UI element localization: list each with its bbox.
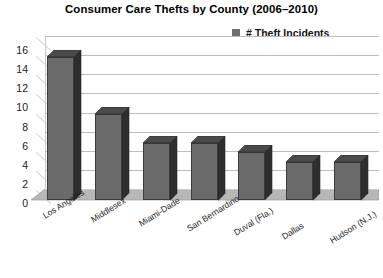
bar-top-face (191, 136, 226, 144)
gridline (45, 93, 379, 94)
plot-area (31, 36, 379, 203)
bar-top-face (143, 136, 178, 144)
y-tick-label: 14 (6, 63, 28, 75)
x-category-label: Hudson (N.J.) (328, 209, 378, 246)
bar-side-face (218, 136, 226, 201)
bar-top-face (95, 107, 130, 115)
bar-side-face (265, 145, 273, 201)
bar-chart-figure: Consumer Care Thefts by County (2006–201… (0, 0, 383, 278)
bar-front-face (47, 57, 74, 200)
bar-front-face (238, 152, 265, 200)
y-tick-label: 12 (6, 82, 28, 94)
chart-title: Consumer Care Thefts by County (2006–201… (0, 3, 383, 15)
bar-top-face (286, 155, 321, 163)
gridline (45, 55, 379, 56)
bar-front-face (286, 162, 313, 200)
bar-top-face (238, 145, 273, 153)
x-category-label: Dallas (280, 220, 306, 241)
bar-column (286, 162, 313, 200)
x-category-label: Duval (Fla.) (232, 205, 275, 237)
bar-front-face (143, 143, 170, 200)
bar-front-face (95, 114, 122, 200)
bar-side-face (170, 136, 178, 201)
bar-column (143, 143, 170, 200)
y-tick-label: 6 (6, 140, 28, 152)
bar-column (47, 57, 74, 200)
bar-column (191, 143, 218, 200)
bar-side-face (74, 50, 82, 201)
bar-front-face (334, 162, 361, 200)
bar-column (238, 152, 265, 200)
gridline (45, 74, 379, 75)
y-tick-label: 4 (6, 159, 28, 171)
bar-top-face (334, 155, 369, 163)
y-axis: 1614121086420 (0, 0, 28, 278)
y-tick-label: 0 (6, 197, 28, 209)
bar-column (334, 162, 361, 200)
y-tick-label: 8 (6, 121, 28, 133)
y-tick-label: 10 (6, 101, 28, 113)
y-tick-label: 16 (6, 44, 28, 56)
y-tick-label: 2 (6, 178, 28, 190)
bar-column (95, 114, 122, 200)
bar-front-face (191, 143, 218, 200)
bar-top-face (47, 50, 82, 58)
gridline (45, 36, 379, 37)
bar-side-face (122, 107, 130, 201)
